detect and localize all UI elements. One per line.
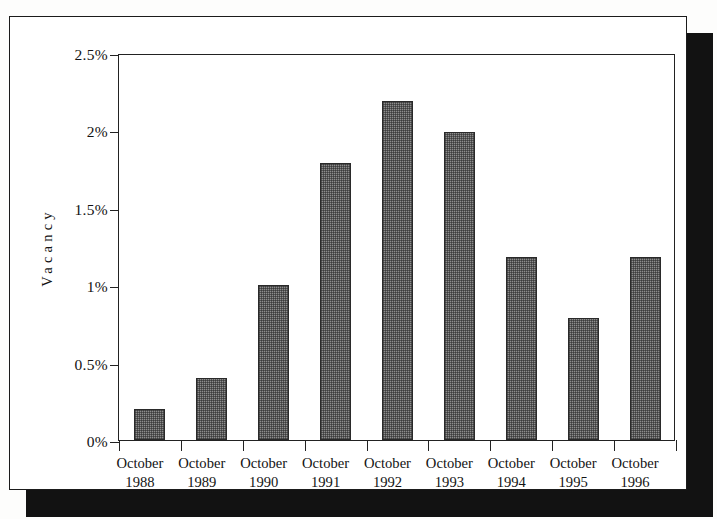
x-axis-category-label: October1991: [295, 454, 357, 493]
x-axis-category-month: October: [480, 454, 542, 473]
y-axis-tick-mark: [110, 55, 119, 56]
x-axis-category-year: 1988: [109, 473, 171, 492]
bar: [320, 163, 351, 440]
x-axis-tick-mark: [305, 440, 306, 451]
bar: [568, 318, 599, 440]
x-axis-category-year: 1996: [604, 473, 666, 492]
x-axis-tick-mark: [552, 440, 553, 451]
y-axis-tick-label: 1%: [87, 278, 108, 296]
y-axis-tick-mark: [110, 365, 119, 366]
x-axis-category-month: October: [542, 454, 604, 473]
bar: [258, 285, 289, 440]
x-axis-category-year: 1990: [233, 473, 295, 492]
x-axis-category-label: October1996: [604, 454, 666, 493]
y-axis-tick-mark: [110, 210, 119, 211]
y-axis-tick-label: 1.5%: [75, 201, 109, 219]
x-axis-tick-mark: [428, 440, 429, 451]
y-axis-tick-label: 2%: [87, 123, 108, 141]
x-axis-category-year: 1992: [357, 473, 419, 492]
x-axis-category-year: 1991: [295, 473, 357, 492]
x-axis-category-label: October1990: [233, 454, 295, 493]
x-axis-tick-mark: [367, 440, 368, 451]
x-axis-category-label: October1988: [109, 454, 171, 493]
y-axis-tick-mark: [110, 442, 119, 443]
bar: [382, 101, 413, 440]
bar: [630, 257, 661, 440]
x-axis-category-label: October1989: [171, 454, 233, 493]
bar: [506, 257, 537, 440]
scanned-page: Vacancy 0%0.5%1%1.5%2%2.5% October1988Oc…: [0, 0, 717, 519]
x-axis-category-month: October: [233, 454, 295, 473]
y-axis-tick-label: 0.5%: [75, 356, 109, 374]
x-axis-category-label: October1995: [542, 454, 604, 493]
x-axis-category-year: 1989: [171, 473, 233, 492]
x-axis-tick-mark: [614, 440, 615, 451]
x-axis-tick-mark: [676, 440, 677, 451]
bar: [134, 409, 165, 440]
x-axis-category-month: October: [357, 454, 419, 473]
x-axis-tick-mark: [181, 440, 182, 451]
y-axis-tick-mark: [110, 132, 119, 133]
x-axis-category-label: October1992: [357, 454, 419, 493]
plot-area: 0%0.5%1%1.5%2%2.5%: [118, 54, 675, 441]
x-axis-category-month: October: [109, 454, 171, 473]
y-axis-tick-label: 0%: [87, 433, 108, 451]
x-axis-category-month: October: [295, 454, 357, 473]
x-axis-tick-mark: [119, 440, 120, 451]
y-axis-title: Vacancy: [36, 54, 58, 441]
x-axis-tick-mark: [243, 440, 244, 451]
x-axis-tick-mark: [490, 440, 491, 451]
x-axis-category-year: 1994: [480, 473, 542, 492]
y-axis-title-label: Vacancy: [39, 208, 56, 287]
y-axis-tick-label: 2.5%: [75, 46, 109, 64]
x-axis-category-year: 1995: [542, 473, 604, 492]
bar: [444, 132, 475, 440]
x-axis-category-month: October: [171, 454, 233, 473]
y-axis-tick-mark: [110, 287, 119, 288]
x-axis-category-label: October1994: [480, 454, 542, 493]
x-axis-category-month: October: [418, 454, 480, 473]
bar: [196, 378, 227, 440]
figure-frame: Vacancy 0%0.5%1%1.5%2%2.5% October1988Oc…: [9, 16, 687, 490]
x-axis-category-year: 1993: [418, 473, 480, 492]
x-axis-category-month: October: [604, 454, 666, 473]
x-axis-category-label: October1993: [418, 454, 480, 493]
